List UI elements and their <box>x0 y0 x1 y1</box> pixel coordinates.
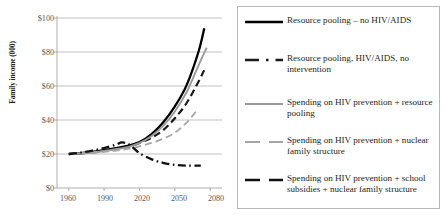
chart-plot-region: Family income (000) $100 $80 $60 $40 $20… <box>0 0 228 215</box>
legend-swatch-dashdot-black-icon <box>243 54 285 66</box>
series-line <box>69 48 207 154</box>
legend-label: Spending on HIV prevention + nuclear fam… <box>285 135 436 156</box>
legend-label: Resource pooling, HIV/AIDS, no intervent… <box>285 53 436 74</box>
chart-canvas <box>0 0 228 215</box>
legend-item[interactable]: Spending on HIV prevention + nuclear fam… <box>243 135 436 156</box>
series-line <box>69 70 205 154</box>
legend-label: Spending on HIV prevention + resource po… <box>285 97 436 118</box>
axis-lines <box>57 16 222 188</box>
legend-item[interactable]: Resource pooling, HIV/AIDS, no intervent… <box>243 53 436 74</box>
chart-figure: Family income (000) $100 $80 $60 $40 $20… <box>0 0 446 215</box>
legend-swatch-solid-black-icon <box>243 16 285 28</box>
legend-swatch-solid-gray-icon <box>243 98 285 110</box>
legend-item[interactable]: Resource pooling – no HIV/AIDS <box>243 15 436 28</box>
legend-item[interactable]: Spending on HIV prevention + school subs… <box>243 173 436 194</box>
chart-legend: Resource pooling – no HIV/AIDS Resource … <box>237 6 440 209</box>
legend-item[interactable]: Spending on HIV prevention + resource po… <box>243 97 436 118</box>
legend-swatch-dashed-gray-icon <box>243 136 285 148</box>
legend-label: Resource pooling – no HIV/AIDS <box>285 15 411 26</box>
series-line <box>69 28 205 154</box>
legend-swatch-dashed-black-icon <box>243 174 285 186</box>
legend-label: Spending on HIV prevention + school subs… <box>285 173 436 194</box>
data-series-group <box>69 28 207 165</box>
